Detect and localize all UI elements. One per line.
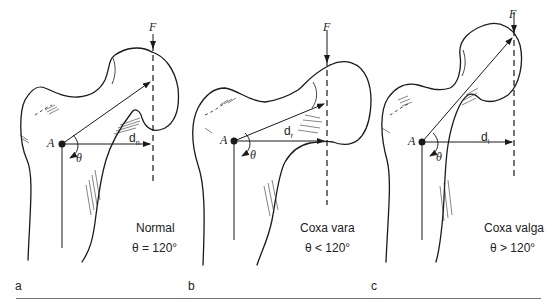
condition-title-a: Normal	[136, 221, 175, 235]
pivot-label-a: A	[47, 136, 54, 151]
panel-label-b: b	[188, 279, 195, 293]
angle-label-c: θ	[436, 150, 442, 165]
angle-text-b: θ < 120°	[305, 241, 350, 255]
moment-arm-label-c: di	[481, 130, 489, 145]
panel-label-c: c	[371, 279, 377, 293]
panel-label-a: a	[15, 279, 22, 293]
pivot-label-b: A	[220, 133, 227, 148]
moment-arm-label-b: dr	[284, 124, 293, 139]
pivot-label-c: A	[408, 134, 415, 149]
angle-label-a: θ	[76, 151, 82, 166]
force-label-b: F	[323, 20, 330, 35]
moment-arm-label-a: dn	[129, 131, 140, 146]
force-label-c: F	[509, 7, 516, 22]
angle-text-c: θ > 120°	[490, 241, 535, 255]
force-label-a: F	[149, 20, 156, 35]
condition-title-c: Coxa valga	[484, 221, 544, 235]
bottom-divider	[16, 298, 541, 299]
angle-label-b: θ	[250, 148, 256, 163]
femur-diagram	[0, 0, 557, 308]
angle-text-a: θ = 120°	[132, 241, 177, 255]
condition-title-b: Coxa vara	[300, 221, 355, 235]
